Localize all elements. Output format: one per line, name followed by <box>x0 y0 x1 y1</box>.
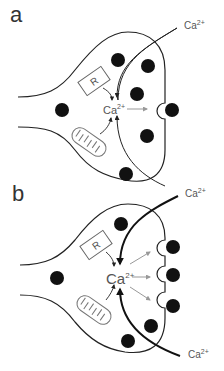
vesicle <box>55 103 69 117</box>
terminal-outline-a <box>18 32 165 181</box>
receptor-box-b: R <box>80 230 112 259</box>
internal-ca-label-a: Ca2+ <box>103 103 125 116</box>
vesicle <box>119 167 133 181</box>
vesicle <box>130 87 144 101</box>
mitochondrion-a <box>69 125 109 160</box>
external-ca-label-b-top: Ca2+ <box>185 187 206 199</box>
vesicle <box>50 271 64 285</box>
receptor-arrow-a <box>103 88 112 100</box>
vesicle <box>114 217 128 231</box>
vesicle <box>141 59 155 73</box>
release-arrow-b-top <box>130 252 150 264</box>
mito-arrow-b <box>106 285 114 300</box>
vesicle <box>121 334 135 348</box>
vesicle <box>166 240 180 254</box>
mito-arrow-a <box>100 118 111 134</box>
ca-influx-path-top-b <box>120 196 178 264</box>
release-arrow-b-bottom <box>130 287 150 300</box>
receptor-box-a: R <box>78 66 110 95</box>
synapse-diagram: a R Ca2+ Ca2+ <box>0 0 224 371</box>
panel-b: b R Ca2+ Ca2+ Ca2+ <box>12 181 209 360</box>
panel-a: a R Ca2+ Ca2+ <box>10 2 205 186</box>
vesicle <box>166 268 180 282</box>
terminal-outline-b <box>20 204 165 353</box>
internal-ca-label-b: Ca2+ <box>106 270 135 287</box>
vesicle <box>144 319 158 333</box>
external-ca-label-b-bottom: Ca2+ <box>188 348 209 360</box>
vesicle <box>165 103 179 117</box>
vesicle <box>166 299 180 313</box>
receptor-arrow-b <box>106 252 114 266</box>
vesicle <box>111 53 125 67</box>
vesicle <box>140 129 154 143</box>
external-ca-label-a: Ca2+ <box>184 19 205 31</box>
panel-label-b: b <box>12 181 24 206</box>
panel-label-a: a <box>10 2 23 27</box>
